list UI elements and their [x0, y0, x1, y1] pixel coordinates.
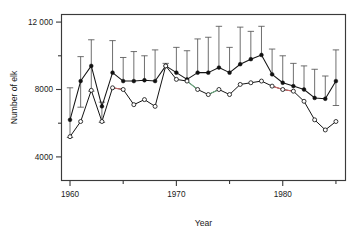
x-axis-tick-label: 1980	[274, 190, 293, 199]
data-point-estimate	[100, 104, 104, 108]
data-point-count	[79, 120, 83, 124]
data-point-count	[291, 89, 295, 93]
data-point-count	[249, 81, 253, 85]
data-point-count	[323, 128, 327, 132]
data-point-estimate	[260, 53, 264, 57]
data-point-estimate	[196, 71, 200, 75]
data-point-count	[196, 87, 200, 91]
data-point-count	[228, 93, 232, 97]
data-point-count	[217, 87, 221, 91]
data-point-estimate	[153, 79, 157, 83]
data-point-count	[89, 88, 93, 92]
data-point-estimate	[89, 64, 93, 68]
data-point-estimate	[281, 81, 285, 85]
data-point-estimate	[270, 72, 274, 76]
data-point-count	[238, 82, 242, 86]
data-point-estimate	[313, 96, 317, 100]
elk-population-chart-figure: 4000800012 000196019701980YearNumber of …	[0, 0, 362, 231]
data-point-count	[185, 79, 189, 83]
plot-frame	[62, 15, 346, 181]
data-point-count	[302, 99, 306, 103]
data-point-count	[334, 120, 338, 124]
y-axis-title: Number of elk	[9, 70, 19, 124]
data-point-estimate	[68, 118, 72, 122]
axis-ticks	[56, 22, 336, 186]
data-point-estimate	[249, 57, 253, 61]
data-point-estimate	[111, 71, 115, 75]
data-point-count	[206, 93, 210, 97]
data-point-estimate	[323, 97, 327, 101]
error-bars	[67, 26, 339, 137]
data-point-estimate	[132, 79, 136, 83]
data-point-estimate	[228, 71, 232, 75]
data-point-count	[100, 120, 104, 124]
axis-labels: 4000800012 000196019701980YearNumber of …	[9, 18, 292, 228]
x-axis-tick-label: 1960	[61, 190, 80, 199]
data-point-count	[132, 103, 136, 107]
data-point-estimate	[143, 78, 147, 82]
data-point-count	[313, 118, 317, 122]
data-point-estimate	[334, 79, 338, 83]
series-lines	[70, 55, 336, 137]
x-axis-tick-label: 1970	[167, 190, 186, 199]
plot-frame-rect	[62, 15, 346, 181]
data-point-estimate	[302, 88, 306, 92]
x-axis-title: Year	[195, 218, 213, 228]
data-point-estimate	[174, 71, 178, 75]
data-point-estimate	[79, 79, 83, 83]
chart-canvas: 4000800012 000196019701980YearNumber of …	[0, 0, 362, 231]
series-line-estimate	[70, 55, 336, 120]
data-point-estimate	[217, 66, 221, 70]
data-point-count	[111, 86, 115, 90]
data-point-estimate	[121, 79, 125, 83]
data-point-count	[270, 84, 274, 88]
data-point-count	[174, 77, 178, 81]
y-axis-tick-label: 4000	[35, 153, 54, 162]
y-axis-tick-label: 12 000	[28, 18, 53, 27]
data-point-count	[121, 87, 125, 91]
data-point-estimate	[291, 84, 295, 88]
data-point-estimate	[206, 71, 210, 75]
data-point-count	[142, 98, 146, 102]
data-point-count	[153, 104, 157, 108]
series-markers	[68, 53, 338, 139]
data-point-count	[68, 135, 72, 139]
data-point-count	[281, 87, 285, 91]
y-axis-tick-label: 8000	[35, 85, 54, 94]
series-line-count	[70, 66, 336, 137]
data-point-count	[164, 64, 168, 68]
data-point-estimate	[238, 62, 242, 66]
data-point-count	[259, 79, 263, 83]
